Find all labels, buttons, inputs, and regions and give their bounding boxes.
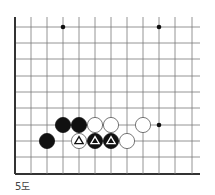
white-stone: [119, 133, 134, 148]
white-stone: [135, 117, 150, 132]
white-stone: [103, 117, 118, 132]
black-stone: [39, 133, 54, 148]
black-stone: [71, 117, 86, 132]
white-stone: [87, 117, 102, 132]
star-point: [157, 123, 162, 128]
board-grid: [15, 17, 200, 174]
black-stone-triangle-marked: [87, 133, 102, 148]
star-point: [61, 25, 66, 30]
diagram-caption: 5도: [15, 181, 30, 193]
black-stone-triangle-marked: [103, 133, 118, 148]
star-point: [157, 25, 162, 30]
white-stone-triangle-marked: [71, 133, 86, 148]
black-stone: [55, 117, 70, 132]
go-board-diagram: [0, 0, 215, 180]
